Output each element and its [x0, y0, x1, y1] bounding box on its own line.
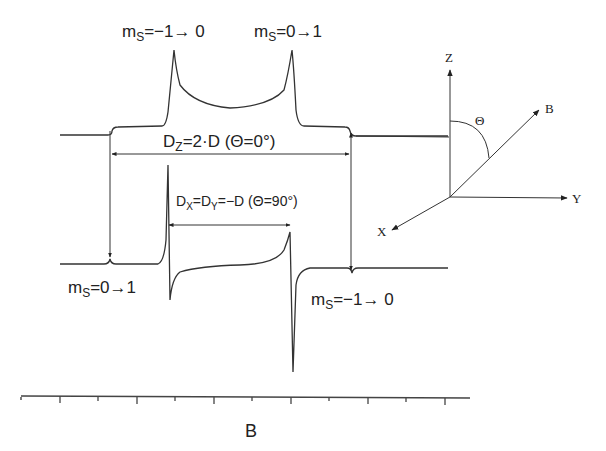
- z-axis-label: Z: [445, 50, 453, 65]
- field-axis: B: [21, 396, 470, 441]
- top-spectrum-trace: [60, 50, 448, 136]
- coordinate-system: Z Y X B Θ: [356, 50, 582, 239]
- peak-label-0-to-1-top: mS=0→1: [254, 22, 322, 44]
- field-axis-label: B: [245, 421, 257, 441]
- y-axis-label: Y: [572, 191, 582, 206]
- b-vector-label: B: [545, 101, 554, 116]
- y-axis-arrow: [450, 197, 567, 198]
- peak-label-minus1-to-0-bottom: mS=−1→ 0: [311, 290, 394, 312]
- peak-label-minus1-to-0-top: mS=−1→ 0: [122, 22, 205, 44]
- dz-label: DZ=2·D (Θ=0°): [163, 132, 275, 154]
- epr-triplet-diagram: mS=−1→ 0 mS=0→1 DZ=2·D (Θ=0°) DX=DY=−D (…: [0, 0, 606, 451]
- dxdy-label: DX=DY=−D (Θ=90°): [176, 193, 298, 212]
- theta-label: Θ: [475, 113, 484, 128]
- x-axis-label: X: [377, 224, 387, 239]
- x-axis-arrow: [392, 197, 450, 230]
- peak-label-0-to-1-bottom: mS=0→1: [68, 278, 136, 300]
